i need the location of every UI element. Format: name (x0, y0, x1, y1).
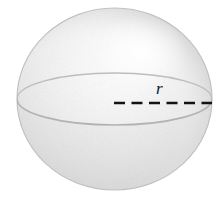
sphere-figure: r (0, 0, 222, 197)
sphere-diagram-canvas (0, 0, 222, 197)
radius-label: r (156, 80, 163, 97)
